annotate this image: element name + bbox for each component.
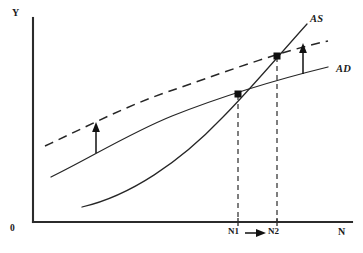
economics-diagram: Y 0 N N1 N2 AS AD <box>0 0 363 253</box>
as-curve-label: AS <box>310 14 323 25</box>
as-curve <box>82 24 307 207</box>
origin-label: 0 <box>10 224 15 234</box>
x-axis-label: N <box>338 227 345 237</box>
equilibrium-marker-e2 <box>274 53 281 60</box>
equilibrium-marker-e1 <box>235 91 242 98</box>
tick-label-n1: N1 <box>228 227 239 236</box>
ad-curve-label: AD <box>336 64 351 75</box>
y-axis-label: Y <box>12 8 19 18</box>
tick-label-n2: N2 <box>268 227 279 236</box>
employment-shift-arrow <box>245 229 266 237</box>
shift-arrow-left <box>92 122 100 153</box>
diagram-canvas <box>0 0 363 253</box>
ad-shifted-curve <box>45 41 328 146</box>
